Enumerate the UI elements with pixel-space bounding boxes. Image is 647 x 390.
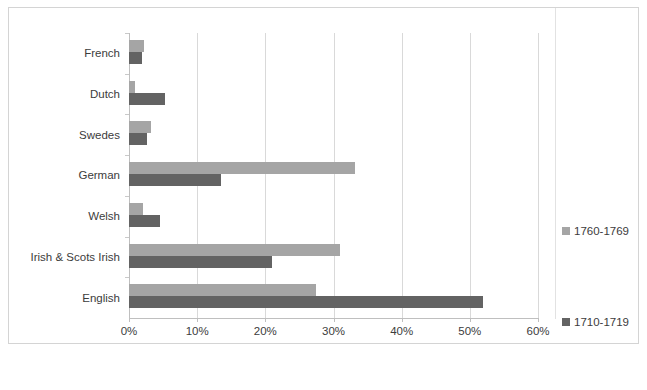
category-tick bbox=[125, 196, 129, 197]
bar-1760-1769-german[interactable] bbox=[129, 162, 355, 174]
category-row: Irish & Scots Irish bbox=[129, 237, 538, 278]
bar-1710-1719-german[interactable] bbox=[129, 174, 221, 186]
x-axis-label-20%: 20% bbox=[254, 325, 277, 337]
category-tick bbox=[125, 74, 129, 75]
bar-1760-1769-swedes[interactable] bbox=[129, 121, 151, 133]
category-row: German bbox=[129, 155, 538, 196]
legend-entry-1710-1719[interactable]: 1710-1719 bbox=[562, 316, 629, 328]
chart-legend: 1760-1769 1710-1719 bbox=[562, 33, 632, 318]
bar-1760-1769-welsh[interactable] bbox=[129, 203, 143, 215]
x-axis-label-50%: 50% bbox=[458, 325, 481, 337]
legend-swatch-1710-1719 bbox=[562, 318, 570, 326]
category-tick bbox=[125, 33, 129, 34]
category-label-welsh: Welsh bbox=[88, 210, 120, 223]
bar-1710-1719-french[interactable] bbox=[129, 52, 142, 64]
x-axis-label-30%: 30% bbox=[322, 325, 345, 337]
x-axis-line bbox=[129, 318, 538, 319]
category-row: Welsh bbox=[129, 196, 538, 237]
chart-frame: FrenchDutchSwedesGermanWelshIrish & Scot… bbox=[8, 7, 639, 344]
category-row: English bbox=[129, 277, 538, 318]
bar-1760-1769-english[interactable] bbox=[129, 284, 316, 296]
category-label-german: German bbox=[78, 169, 120, 182]
category-tick bbox=[125, 155, 129, 156]
x-axis-label-60%: 60% bbox=[526, 325, 549, 337]
category-row: Dutch bbox=[129, 74, 538, 115]
legend-swatch-1760-1769 bbox=[562, 227, 570, 235]
category-label-french: French bbox=[84, 47, 120, 60]
x-axis-label-40%: 40% bbox=[390, 325, 413, 337]
bar-1760-1769-dutch[interactable] bbox=[129, 81, 135, 93]
plot-area: FrenchDutchSwedesGermanWelshIrish & Scot… bbox=[129, 33, 538, 318]
legend-label-1760-1769: 1760-1769 bbox=[574, 225, 629, 237]
category-label-english: English bbox=[82, 291, 120, 304]
category-label-swedes: Swedes bbox=[79, 128, 120, 141]
legend-label-1710-1719: 1710-1719 bbox=[574, 316, 629, 328]
category-tick bbox=[125, 277, 129, 278]
x-tick-60% bbox=[538, 318, 539, 322]
category-row: Swedes bbox=[129, 114, 538, 155]
bar-1760-1769-irish-scots-irish[interactable] bbox=[129, 244, 340, 256]
bar-1710-1719-english[interactable] bbox=[129, 296, 483, 308]
gridline-60% bbox=[538, 33, 539, 318]
category-row: French bbox=[129, 33, 538, 74]
bar-1760-1769-french[interactable] bbox=[129, 40, 144, 52]
bar-1710-1719-swedes[interactable] bbox=[129, 133, 147, 145]
legend-divider bbox=[555, 8, 556, 319]
x-axis-label-0%: 0% bbox=[121, 325, 138, 337]
bar-1710-1719-dutch[interactable] bbox=[129, 93, 165, 105]
bar-1710-1719-irish-scots-irish[interactable] bbox=[129, 256, 272, 268]
category-tick bbox=[125, 114, 129, 115]
bar-1710-1719-welsh[interactable] bbox=[129, 215, 160, 227]
category-label-irish-scots-irish: Irish & Scots Irish bbox=[31, 251, 120, 264]
x-axis-label-10%: 10% bbox=[186, 325, 209, 337]
legend-entry-1760-1769[interactable]: 1760-1769 bbox=[562, 225, 629, 237]
category-tick bbox=[125, 237, 129, 238]
category-label-dutch: Dutch bbox=[90, 88, 120, 101]
